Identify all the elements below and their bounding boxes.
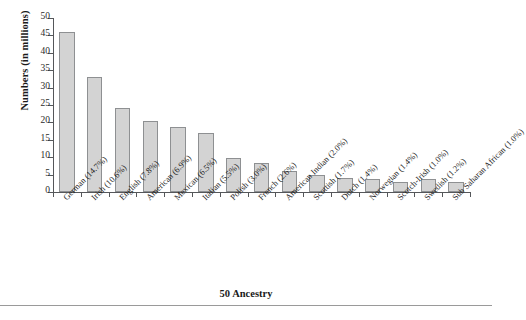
y-tick-label: 40 bbox=[41, 46, 51, 56]
bar bbox=[59, 32, 75, 192]
x-axis-title: 50 Ancestry bbox=[0, 288, 492, 299]
y-tick-label: 10 bbox=[41, 150, 51, 160]
y-tick-label: 50 bbox=[41, 11, 51, 21]
y-tick-label: 15 bbox=[41, 133, 51, 143]
x-tick-mark bbox=[470, 192, 471, 197]
y-tick-label: 5 bbox=[45, 168, 50, 178]
y-axis-line bbox=[53, 18, 54, 192]
bottom-divider bbox=[0, 305, 492, 306]
y-tick-label: 45 bbox=[41, 28, 51, 38]
y-tick-label: 0 bbox=[45, 185, 50, 195]
y-tick-label: 25 bbox=[41, 98, 51, 108]
x-axis-category-labels: German (14.7%)Irish (10.6%)English (7.8%… bbox=[53, 192, 470, 292]
y-tick-label: 35 bbox=[41, 63, 51, 73]
y-axis-title: Numbers (in millions) bbox=[19, 0, 30, 141]
y-tick-label: 20 bbox=[41, 115, 51, 125]
y-tick-label: 30 bbox=[41, 81, 51, 91]
